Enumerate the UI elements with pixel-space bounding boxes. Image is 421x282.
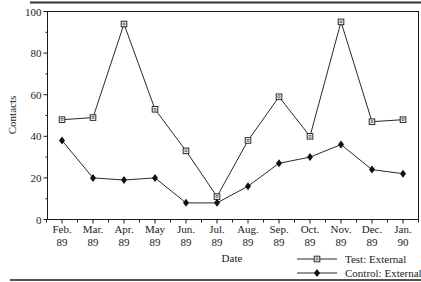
chart-figure: 020406080100 Feb.89Mar.89Apr.89May89Jun.… [0, 0, 421, 282]
y-tick-label: 60 [31, 89, 43, 101]
filled-diamond-marker [314, 269, 320, 277]
filled-diamond-marker [338, 141, 344, 149]
y-tick-label: 0 [36, 214, 42, 226]
filled-diamond-marker [121, 176, 127, 184]
open-square-marker [369, 119, 375, 125]
open-square-marker [245, 138, 251, 144]
filled-diamond-marker [214, 199, 220, 207]
series-line [62, 22, 403, 197]
open-square-marker [338, 19, 344, 25]
open-square-marker [183, 148, 189, 154]
series-layer [59, 19, 406, 207]
open-square-marker [307, 134, 313, 140]
legend-label: Test: External [345, 253, 406, 265]
x-tick-label: Mar.89 [83, 223, 104, 248]
legend-item: Test: External [297, 253, 406, 265]
open-square-marker [152, 106, 158, 112]
series-test-external [59, 19, 406, 199]
filled-diamond-marker [183, 199, 189, 207]
x-axis: Feb.89Mar.89Apr.89May89Jun.89Jul.89Aug.8… [47, 220, 419, 249]
x-tick-label: Jun.89 [177, 223, 195, 248]
x-tick-label: Oct.89 [301, 223, 320, 248]
filled-diamond-marker [369, 166, 375, 174]
y-tick-label: 80 [31, 47, 43, 59]
legend-item: Control: External [297, 267, 421, 279]
legend: Test: ExternalControl: External [297, 253, 421, 279]
x-tick-label: Aug.89 [237, 223, 259, 248]
open-square-marker [121, 21, 127, 27]
open-square-marker [214, 194, 220, 200]
x-tick-label: Jan.90 [394, 223, 412, 248]
series-control-external [59, 136, 406, 206]
plot-frame [48, 12, 419, 220]
x-axis-title: Date [222, 252, 243, 264]
x-tick-label: Dec.89 [362, 223, 383, 248]
filled-diamond-marker [245, 182, 251, 190]
y-tick-label: 100 [25, 6, 42, 18]
filled-diamond-marker [307, 153, 313, 161]
x-tick-label: Jul.89 [209, 223, 225, 248]
open-square-marker [276, 94, 282, 100]
legend-label: Control: External [345, 267, 421, 279]
y-tick-label: 20 [31, 172, 43, 184]
x-tick-label: Feb.89 [52, 223, 72, 248]
open-square-marker [90, 115, 96, 121]
x-tick-label: Nov.89 [331, 223, 352, 248]
filled-diamond-marker [400, 170, 406, 178]
open-square-marker [400, 117, 406, 123]
x-tick-label: Apr.89 [114, 223, 134, 248]
x-tick-label: Sep.89 [269, 223, 289, 248]
filled-diamond-marker [152, 174, 158, 182]
filled-diamond-marker [276, 159, 282, 167]
line-chart: 020406080100 Feb.89Mar.89Apr.89May89Jun.… [0, 0, 421, 282]
y-axis: 020406080100 [25, 6, 48, 226]
open-square-marker [59, 117, 65, 123]
x-tick-label: May89 [145, 223, 166, 248]
y-axis-title: Contacts [6, 96, 18, 135]
open-square-marker [314, 256, 320, 262]
series-line [62, 141, 403, 203]
y-tick-label: 40 [31, 130, 43, 142]
